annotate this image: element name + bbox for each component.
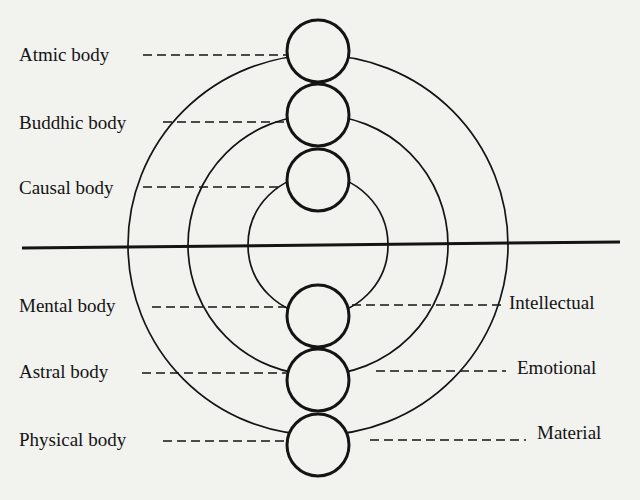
body-circle	[287, 84, 349, 146]
label-physical-body: Physical body	[18, 429, 127, 451]
body-circle	[287, 349, 349, 411]
body-circle	[287, 414, 349, 476]
label-intellectual: Intellectual	[508, 292, 595, 314]
label-emotional: Emotional	[516, 357, 597, 379]
horizontal-divider	[22, 242, 620, 248]
label-buddhic-body: Buddhic body	[18, 112, 127, 134]
label-atmic-body: Atmic body	[18, 44, 110, 66]
body-circle	[287, 149, 349, 211]
label-astral-body: Astral body	[18, 361, 109, 383]
label-causal-body: Causal body	[18, 177, 114, 199]
label-mental-body: Mental body	[18, 295, 117, 317]
body-circle	[287, 20, 349, 82]
body-circle	[287, 285, 349, 347]
subtle-bodies-diagram: Atmic body Buddhic body Causal body Ment…	[0, 0, 640, 500]
label-material: Material	[536, 422, 602, 444]
